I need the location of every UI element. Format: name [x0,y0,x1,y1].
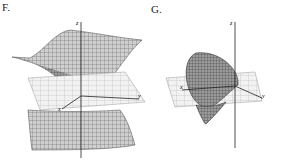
figure-panel: F. G. [0,0,292,162]
axis-z-label: z [75,20,79,26]
figure-g-plot: z x y [166,20,265,148]
axis-x-label: x [57,106,61,112]
surface-plots: z x y z x y [0,0,292,162]
axis-y-label-g: y [261,93,265,99]
figure-f-plot: z x y [12,20,145,158]
axis-z-label-g: z [229,20,233,26]
axis-y-label: y [137,93,141,99]
axis-x-label-g: x [179,84,183,90]
